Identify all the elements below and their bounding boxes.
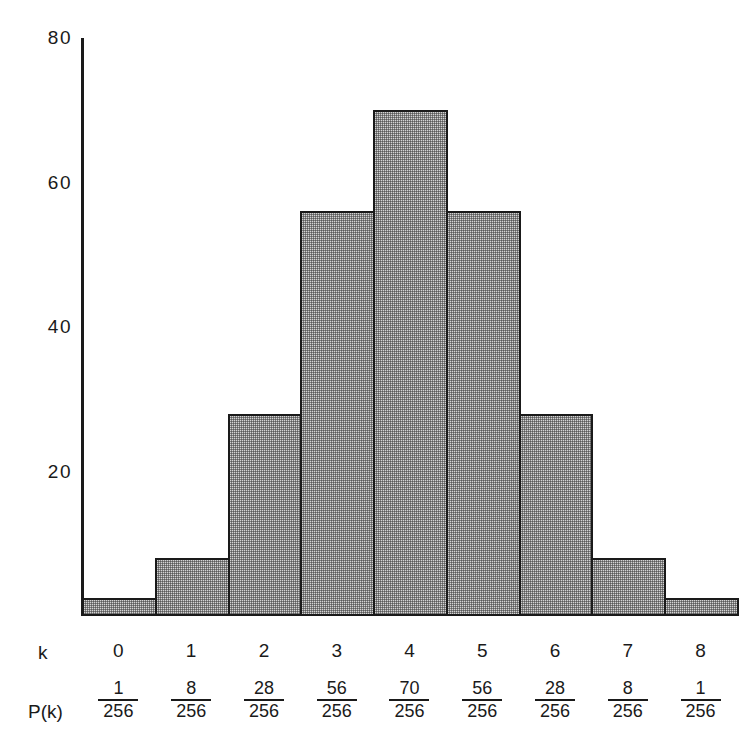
pk-denominator-8: 256 bbox=[664, 701, 737, 721]
pk-denominator-5: 256 bbox=[446, 701, 519, 721]
y-tick-label-40: 40 bbox=[22, 316, 72, 338]
pk-fraction-0: 1 256 bbox=[82, 679, 155, 721]
bar-k4 bbox=[373, 110, 448, 616]
pk-fraction-7: 8 256 bbox=[591, 679, 664, 721]
pk-numerator-7: 8 bbox=[591, 679, 664, 699]
k-value-2: 2 bbox=[228, 640, 301, 662]
k-value-4: 4 bbox=[373, 640, 446, 662]
bar-k0 bbox=[82, 598, 157, 616]
pk-fraction-1: 8 256 bbox=[155, 679, 228, 721]
pk-row-label: P(k) bbox=[28, 701, 63, 723]
histogram-figure: 80 60 40 20 k 0 1 2 3 4 5 6 7 8 bbox=[0, 0, 754, 754]
bar-k1 bbox=[155, 558, 230, 616]
pk-numerator-3: 56 bbox=[300, 679, 373, 699]
bar-group bbox=[82, 38, 737, 616]
bar-k8 bbox=[664, 598, 739, 616]
pk-numerator-6: 28 bbox=[519, 679, 592, 699]
pk-numerator-0: 1 bbox=[82, 679, 155, 699]
k-value-8: 8 bbox=[664, 640, 737, 662]
k-row-label: k bbox=[38, 642, 48, 664]
pk-numerator-1: 8 bbox=[155, 679, 228, 699]
value-table: k 0 1 2 3 4 5 6 7 8 P(k) 1 256 8 256 bbox=[0, 625, 754, 754]
plot-area: 80 60 40 20 bbox=[0, 0, 754, 625]
bar-k3 bbox=[300, 211, 375, 616]
k-value-1: 1 bbox=[155, 640, 228, 662]
k-value-3: 3 bbox=[300, 640, 373, 662]
y-tick-label-20: 20 bbox=[22, 461, 72, 483]
pk-denominator-0: 256 bbox=[82, 701, 155, 721]
pk-numerator-5: 56 bbox=[446, 679, 519, 699]
k-value-7: 7 bbox=[591, 640, 664, 662]
pk-denominator-2: 256 bbox=[228, 701, 301, 721]
pk-denominator-4: 256 bbox=[373, 701, 446, 721]
y-tick-label-60: 60 bbox=[22, 172, 72, 194]
k-value-0: 0 bbox=[82, 640, 155, 662]
pk-denominator-1: 256 bbox=[155, 701, 228, 721]
pk-fraction-3: 56 256 bbox=[300, 679, 373, 721]
y-tick-label-80: 80 bbox=[22, 27, 72, 49]
bar-k5 bbox=[446, 211, 521, 616]
pk-fraction-2: 28 256 bbox=[228, 679, 301, 721]
bar-k7 bbox=[591, 558, 666, 616]
k-value-6: 6 bbox=[519, 640, 592, 662]
pk-fraction-8: 1 256 bbox=[664, 679, 737, 721]
pk-denominator-7: 256 bbox=[591, 701, 664, 721]
pk-denominator-3: 256 bbox=[300, 701, 373, 721]
bar-k2 bbox=[228, 414, 303, 616]
pk-fraction-4: 70 256 bbox=[373, 679, 446, 721]
pk-numerator-4: 70 bbox=[373, 679, 446, 699]
pk-fraction-6: 28 256 bbox=[519, 679, 592, 721]
pk-numerator-8: 1 bbox=[664, 679, 737, 699]
bar-k6 bbox=[519, 414, 594, 616]
pk-row: P(k) 1 256 8 256 28 256 56 256 bbox=[0, 679, 754, 749]
pk-fraction-5: 56 256 bbox=[446, 679, 519, 721]
k-row: k 0 1 2 3 4 5 6 7 8 bbox=[0, 635, 754, 671]
pk-denominator-6: 256 bbox=[519, 701, 592, 721]
pk-numerator-2: 28 bbox=[228, 679, 301, 699]
k-value-5: 5 bbox=[446, 640, 519, 662]
